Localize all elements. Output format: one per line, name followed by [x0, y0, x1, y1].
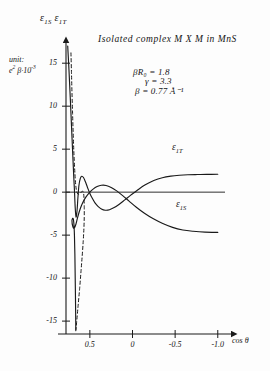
y-axis-title: ε1S ε1T — [40, 13, 67, 25]
curve-label-eps1s: ε1S — [176, 200, 186, 212]
x-tick-label: -1.0 — [205, 340, 231, 349]
curve-label-eps1t: ε1T — [172, 143, 183, 155]
y-tick-label: 15 — [35, 58, 57, 67]
x-tick-label: -0.5 — [162, 340, 188, 349]
parameter-annotations: βR₀ = 1.8 γ = 3.3 β = 0.77 Å⁻¹ — [133, 68, 184, 96]
y-axis-title-eps1t: ε1T — [54, 12, 66, 23]
x-axis-title: cos θ — [232, 337, 249, 345]
chart-title: Isolated complex M X M in MnS — [98, 35, 237, 45]
y-tick-label: 5 — [35, 144, 57, 153]
x-tick-label: 0 — [120, 340, 146, 349]
y-tick-label: -5 — [35, 230, 57, 239]
figure-container: ε1S ε1T unit: e2 β·10-3 Isolated complex… — [0, 0, 270, 371]
unit-value-text: e2 β·10-3 — [9, 65, 36, 75]
y-axis-title-eps1s: ε1S — [40, 12, 52, 23]
y-tick-label: -10 — [35, 273, 57, 282]
y-tick-label: 0 — [35, 187, 57, 196]
parameter-beta: β = 0.77 Å⁻¹ — [135, 87, 184, 96]
curve-ε₁ₛ — [72, 185, 218, 330]
unit-label-text: unit: — [9, 55, 24, 64]
unit-annotation: unit: e2 β·10-3 — [9, 56, 36, 75]
x-tick-label: 0.5 — [77, 340, 103, 349]
y-tick-label: 10 — [35, 101, 57, 110]
y-tick-label: -15 — [35, 316, 57, 325]
